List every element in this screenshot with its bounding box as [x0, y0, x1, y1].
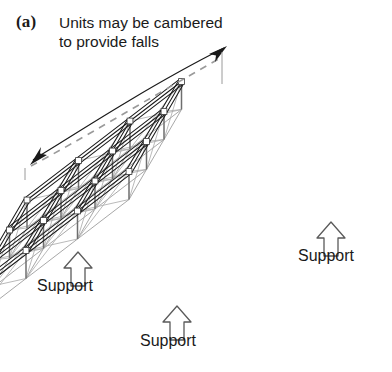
- panel-label: (a): [16, 12, 36, 32]
- space-frame-diagram: [0, 0, 392, 372]
- support-label-mid: Support: [140, 332, 196, 350]
- support-label-right: Support: [298, 247, 354, 265]
- support-label-left: Support: [37, 277, 93, 295]
- figure-caption: Units may be cambered to provide falls: [59, 13, 223, 51]
